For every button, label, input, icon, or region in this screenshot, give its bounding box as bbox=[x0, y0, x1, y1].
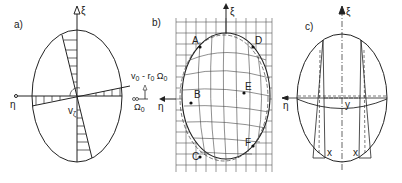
panel-a-label: a) bbox=[14, 20, 23, 30]
point-label-f: F bbox=[245, 138, 251, 148]
panel-c bbox=[282, 6, 387, 170]
x-label-left: x bbox=[327, 148, 332, 158]
omega0-symbol: Ω bbox=[134, 102, 141, 112]
x-label-right: x bbox=[353, 148, 358, 158]
point-label-a: A bbox=[192, 36, 199, 46]
figure-canvas bbox=[0, 0, 402, 183]
y-label-c: y bbox=[345, 100, 350, 110]
eta-label-a: η bbox=[10, 100, 16, 110]
omega-sub: 0 bbox=[164, 75, 168, 82]
xi-label-a: ξ bbox=[81, 6, 85, 16]
v-zeta-label: vζ bbox=[68, 106, 76, 117]
point-label-c: C bbox=[192, 152, 199, 162]
panel-a bbox=[14, 6, 130, 162]
eta-label-c: η bbox=[283, 101, 289, 111]
omega0-sub: 0 bbox=[141, 106, 145, 113]
minus-r: - r bbox=[139, 71, 150, 81]
xi-label-c: ξ bbox=[346, 7, 350, 17]
omega-symbol: Ω bbox=[154, 71, 163, 81]
xi-label-b: ξ bbox=[230, 7, 234, 17]
v-zeta-sub: ζ bbox=[73, 110, 76, 117]
eta-label-b: η bbox=[158, 102, 164, 112]
panel-b-label: b) bbox=[152, 18, 161, 28]
omega0-label: Ω0 bbox=[134, 103, 145, 113]
panel-c-label: c) bbox=[305, 22, 313, 32]
point-label-e: E bbox=[245, 82, 252, 92]
point-label-b: B bbox=[194, 90, 201, 100]
point-label-d: D bbox=[255, 36, 262, 46]
v0-r0-omega0-label: v0 - r0 Ω0 bbox=[131, 72, 167, 82]
